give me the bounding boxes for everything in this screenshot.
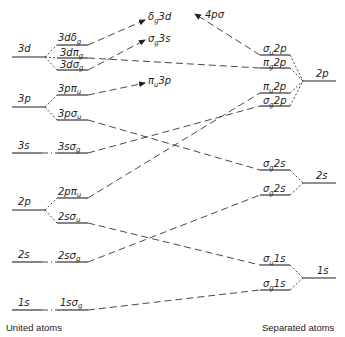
svg-text:πg2p: πg2p bbox=[263, 57, 286, 71]
united-atom-orbital-labels: 3dδg 3dπg 3dσg 3pπu 3pσu 3sσg 2pπu 2sσu … bbox=[58, 32, 84, 310]
svg-text:3dδg: 3dδg bbox=[58, 32, 82, 46]
united-atom-splitting bbox=[42, 45, 57, 310]
svg-text:δg3d: δg3d bbox=[148, 11, 172, 25]
svg-text:1s: 1s bbox=[18, 297, 30, 308]
svg-text:2p: 2p bbox=[316, 68, 329, 79]
svg-text:3sσg: 3sσg bbox=[58, 141, 81, 154]
svg-text:πu3p: πu3p bbox=[148, 75, 171, 89]
separated-atom-labels: 2p 2s 1s bbox=[316, 68, 329, 276]
svg-text:3pσu: 3pσu bbox=[58, 108, 82, 121]
svg-text:2s: 2s bbox=[18, 249, 30, 260]
separated-atom-splitting bbox=[290, 55, 303, 290]
svg-text:4pσ: 4pσ bbox=[205, 9, 225, 20]
svg-text:1s: 1s bbox=[317, 265, 329, 276]
svg-text:σg2p: σg2p bbox=[263, 95, 287, 109]
separated-atom-orbital-labels: σu2p πg2p πu2p σg2p σg2s σg2s σu1s σg1s bbox=[263, 43, 287, 292]
label-3d: 3d bbox=[18, 43, 31, 54]
svg-text:2sσg: 2sσg bbox=[58, 250, 81, 263]
correlation-lines bbox=[88, 14, 260, 310]
united-atom-labels: 3d 3p 3s 2p 2s 1s bbox=[18, 43, 31, 308]
caption-separated-atoms: Separated atoms bbox=[262, 322, 335, 333]
svg-text:3s: 3s bbox=[18, 140, 30, 151]
correlation-diagram: 3d 3p 3s 2p 2s 1s 3dδg 3dπg 3dσg 3pπu 3p… bbox=[0, 0, 345, 337]
svg-text:3p: 3p bbox=[18, 93, 31, 104]
svg-text:2p: 2p bbox=[18, 196, 31, 207]
svg-text:3pπu: 3pπu bbox=[58, 83, 82, 96]
arrow-target-labels: δg3d σg3s πu3p 4pσ bbox=[148, 9, 225, 89]
caption-united-atoms: United atoms bbox=[6, 322, 62, 333]
svg-text:1sσg: 1sσg bbox=[60, 297, 83, 310]
svg-text:2s: 2s bbox=[316, 170, 328, 181]
svg-text:2sσu: 2sσu bbox=[58, 211, 81, 224]
svg-text:2pπu: 2pπu bbox=[58, 186, 82, 199]
svg-text:σg3s: σg3s bbox=[148, 33, 170, 47]
